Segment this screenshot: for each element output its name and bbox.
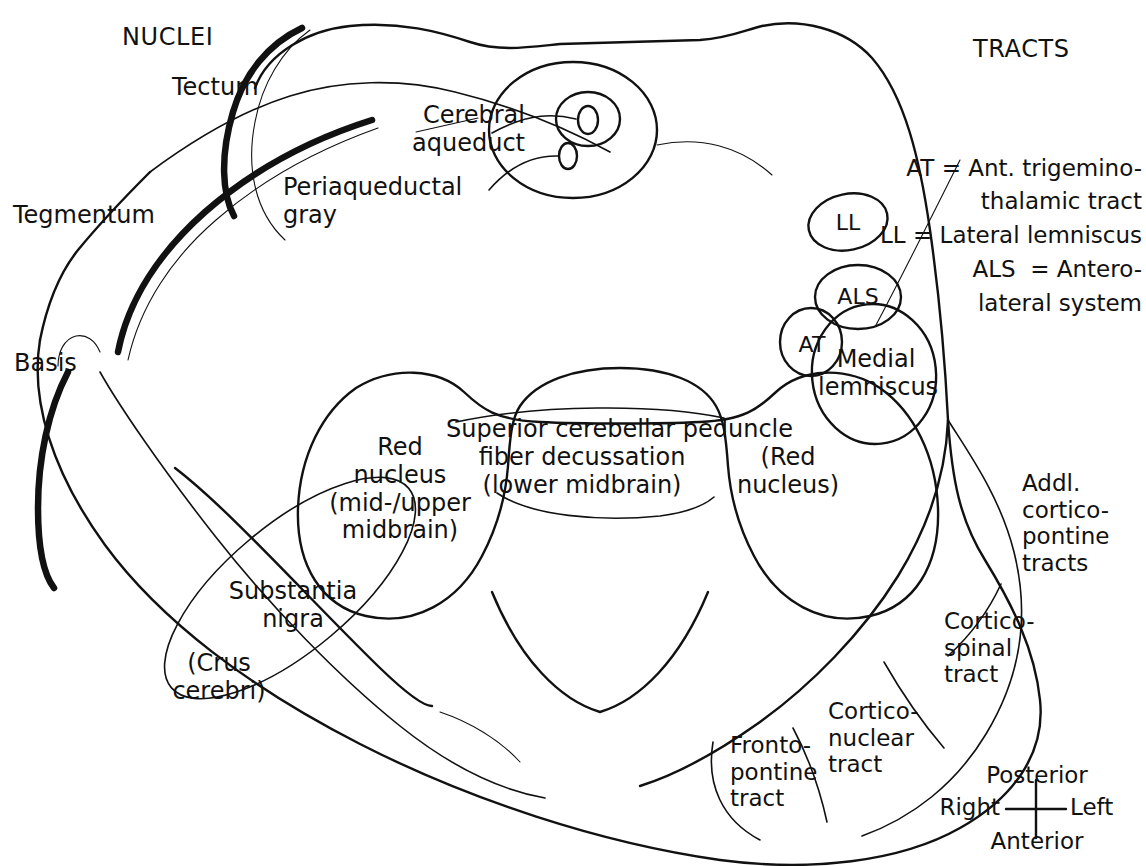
legend-als-line2: lateral system <box>870 290 1142 317</box>
midbrain-diagram-canvas: NUCLEI TRACTS Tectum Tegmentum Basis Cer… <box>0 0 1146 866</box>
compass-right: Right <box>900 794 1000 821</box>
label-ll-oval: LL <box>818 210 878 236</box>
interpeduncular-fossa <box>492 592 708 712</box>
basis-lateral-sulcus-outer <box>40 172 150 340</box>
label-crus-cerebri: (Crus cerebri) <box>160 650 278 706</box>
basis-bracket <box>38 372 68 588</box>
label-periaqueductal-gray: Periaqueductal gray <box>283 174 462 230</box>
label-corticospinal: Cortico- spinal tract <box>944 608 1034 688</box>
label-tegmentum: Tegmentum <box>13 202 155 230</box>
heading-nuclei: NUCLEI <box>122 24 214 52</box>
compass-anterior: Anterior <box>966 828 1108 855</box>
pag-lateral-thin-line <box>657 142 772 175</box>
label-addl-corticopontine: Addl. cortico- pontine tracts <box>1022 470 1109 577</box>
cerebral-aqueduct-circle <box>556 92 620 146</box>
legend-at-line1: AT = Ant. trigemino- <box>870 155 1142 182</box>
label-frontopontine: Fronto- pontine tract <box>730 732 817 812</box>
legend-ll: LL = Lateral lemniscus <box>870 222 1142 249</box>
label-scp-decussation: Superior cerebellar peduncle fiber decus… <box>446 416 718 499</box>
label-medial-lemniscus-oval: Medial lemniscus <box>818 346 934 402</box>
compass-posterior: Posterior <box>966 762 1108 789</box>
legend-at-line2: thalamic tract <box>870 188 1142 215</box>
label-corticonuclear: Cortico- nuclear tract <box>828 698 918 778</box>
heading-tracts: TRACTS <box>973 36 1070 64</box>
tegmentum-accent-line <box>128 128 378 360</box>
aqueduct-lumen-lower <box>559 143 577 169</box>
label-basis: Basis <box>14 350 77 378</box>
tegmentum-emphasis-arc <box>118 120 372 352</box>
label-cerebral-aqueduct: Cerebral aqueduct <box>395 102 525 158</box>
crus-cerebri-junction-node <box>440 712 520 762</box>
compass-left: Left <box>1070 794 1113 821</box>
label-substantia-nigra: Substantia nigra <box>225 578 361 634</box>
label-tectum: Tectum <box>172 74 259 102</box>
aqueduct-lumen-upper <box>578 106 598 134</box>
label-red-nucleus-right: (Red nucleus) <box>718 444 858 500</box>
legend-als-line1: ALS = Antero- <box>870 256 1142 283</box>
